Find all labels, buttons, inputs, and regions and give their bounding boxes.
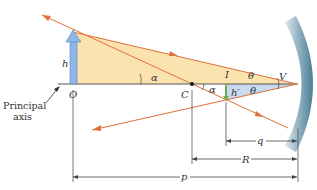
label-principal: Principal <box>3 100 46 111</box>
label-c: C <box>181 89 189 100</box>
label-alpha-1: α <box>151 72 158 83</box>
label-theta-2: θ <box>250 85 256 96</box>
label-o: O <box>69 89 77 100</box>
label-h-prime: h′ <box>231 87 240 98</box>
object-arrow-shaft <box>70 40 77 84</box>
ray-arrowhead <box>255 111 264 117</box>
label-v: V <box>279 71 288 82</box>
label-axis: axis <box>13 111 32 122</box>
mirror-diagram: h O α C α I h′ θ θ V q R p Principal axi… <box>0 0 317 190</box>
center-point <box>190 82 194 86</box>
ray-arrowhead <box>169 51 178 56</box>
ray-arrowhead <box>92 125 101 131</box>
label-r: R <box>241 154 250 165</box>
ray-arrowhead <box>42 15 51 21</box>
label-theta-1: θ <box>248 70 254 81</box>
label-alpha-2: α <box>209 84 216 95</box>
ray-reflected-from-vertex <box>92 84 297 130</box>
label-q: q <box>257 135 263 146</box>
label-p: p <box>181 171 188 182</box>
label-h: h <box>62 58 68 69</box>
